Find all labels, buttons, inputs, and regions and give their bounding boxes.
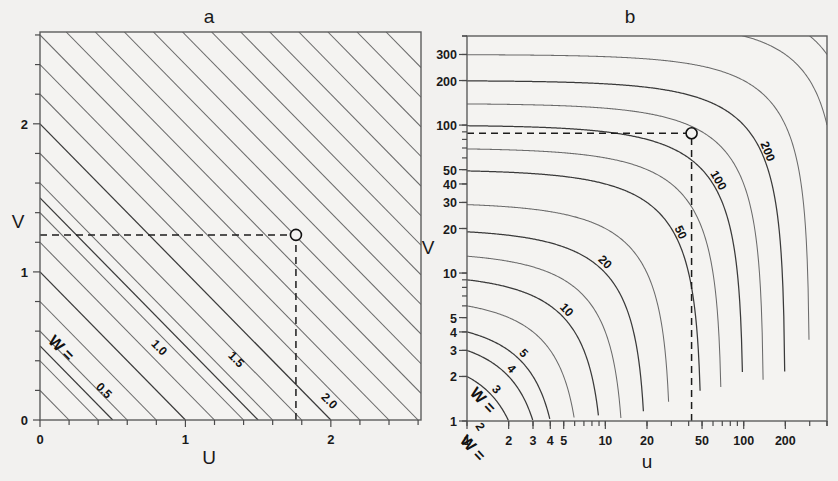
yticklabel-b-3: 3 [450,344,457,358]
xticklabel-b-200: 200 [775,434,796,448]
xticklabel-b-50: 50 [695,434,709,448]
marker-open-circle-a [290,229,301,240]
xticklabel-b-100: 100 [733,434,754,448]
yticklabel-b-50: 50 [443,164,457,178]
yticklabel-b-1: 1 [450,415,457,429]
xticklabel-b-10: 10 [598,434,612,448]
panel-a-title: a [204,6,215,27]
xticklabel-b-5: 5 [560,434,567,448]
panel-b-marker [686,128,697,139]
xticklabel-a-1: 1 [182,432,189,447]
yticklabel-b-200: 200 [436,75,457,89]
panel-b-yaxis-label: V [422,237,435,258]
xticklabel-b-4: 4 [547,434,554,448]
yticklabel-a-2: 2 [21,117,28,132]
yticklabel-b-5: 5 [450,312,457,326]
yticklabel-b-20: 20 [443,223,457,237]
xticklabel-b-3: 3 [530,434,537,448]
yticklabel-b-40: 40 [443,178,457,192]
yticklabel-a-0: 0 [21,413,28,428]
yticklabel-b-10: 10 [443,267,457,281]
xticklabel-a-0: 0 [36,432,43,447]
panel-a: a 012012 0.5W =1.01.52.0 U V [12,6,421,468]
yticklabel-b-4: 4 [450,326,457,340]
yticklabel-b-100: 100 [436,119,457,133]
panel-b-plot-background [467,36,827,421]
xticklabel-b-2: 2 [505,434,512,448]
yticklabel-b-30: 30 [443,196,457,210]
yticklabel-b-2: 2 [450,370,457,384]
nomogram-figure: a 012012 0.5W =1.01.52.0 U V b 123451020… [0,0,838,481]
yticklabel-b-300: 300 [436,48,457,62]
panel-b-title: b [625,6,636,27]
xticklabel-b-20: 20 [640,434,654,448]
panel-b: b 12345102050100200123451020304050100200… [422,6,827,472]
panel-a-xaxis-label: U [202,447,216,468]
panel-a-yaxis-label: V [12,211,25,232]
panel-b-xaxis-label: u [642,451,653,472]
marker-open-circle-b [686,128,697,139]
panel-a-marker [290,229,301,240]
yticklabel-a-1: 1 [21,265,28,280]
xticklabel-a-2: 2 [327,432,334,447]
